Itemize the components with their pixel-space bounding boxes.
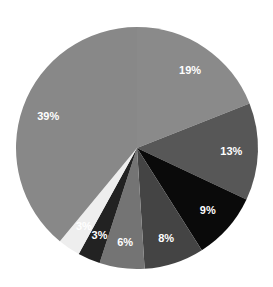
slice-label: 6% — [117, 236, 133, 248]
pie-chart: 19%13%9%8%6%3%3%39% — [0, 0, 273, 287]
slice-label: 3% — [76, 220, 92, 232]
slice-label: 9% — [200, 204, 216, 216]
slice-label: 13% — [220, 145, 242, 157]
slice-label: 8% — [158, 232, 174, 244]
slice-label: 19% — [179, 64, 201, 76]
slice-label: 3% — [92, 229, 108, 241]
slice-label: 39% — [37, 110, 59, 122]
